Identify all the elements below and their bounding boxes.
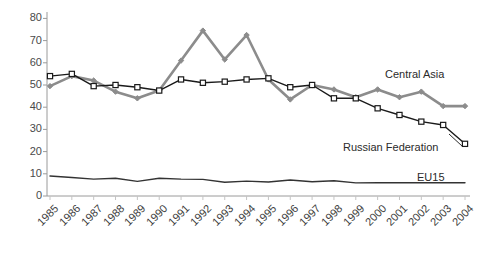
y-tick-0: 0 [10,189,42,201]
y-tick-80: 80 [10,11,42,23]
y-tick-10: 10 [10,167,42,179]
x-axis-ticks [50,196,465,200]
series-russian-federation [47,71,467,146]
line-chart: 01020304050607080 1985198619871988198919… [0,0,482,255]
annotation-eu15: EU15 [417,171,445,183]
y-tick-40: 40 [10,100,42,112]
y-tick-30: 30 [10,122,42,134]
y-tick-50: 50 [10,78,42,90]
series-eu15 [50,176,465,183]
y-axis-ticks [43,18,47,196]
annotation-russian-federation: Russian Federation [343,141,438,153]
chart-axes [47,12,470,196]
annotation-central-asia: Central Asia [385,68,444,80]
y-tick-60: 60 [10,56,42,68]
y-tick-70: 70 [10,34,42,46]
y-tick-20: 20 [10,145,42,157]
